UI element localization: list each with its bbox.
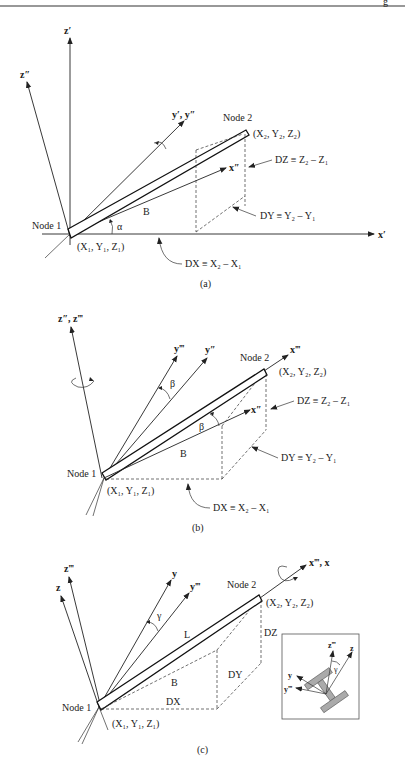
- corner-glyph: g: [383, 0, 388, 7]
- z-label: z: [56, 582, 61, 593]
- x-axis: [260, 565, 306, 598]
- z-tprime-label: z‴: [64, 563, 74, 574]
- dz-label: DZ ≡ Z₂ – Z₁: [275, 154, 328, 165]
- y-dprime-label: y″: [205, 344, 216, 355]
- dz-label: DZ ≡ Z₂ – Z₁: [297, 395, 350, 406]
- x-prime-label: x′: [378, 229, 386, 240]
- dx-label: DX ≡ X₂ – X₁: [185, 258, 242, 269]
- y-tprime-label: y‴: [174, 343, 185, 354]
- node1-label: Node 1: [32, 220, 61, 231]
- dx-label: DX ≡ X₂ – X₁: [213, 502, 270, 513]
- node2-coords: (X₂, Y₂, Z₂): [253, 128, 300, 140]
- z-label: z″, z‴: [58, 313, 83, 324]
- projection-b-label: B: [143, 206, 150, 217]
- projection-b-label: B: [171, 677, 178, 688]
- dz-label: DZ: [264, 627, 277, 638]
- caption-c: (c): [197, 744, 208, 756]
- cross-section-inset: z‴ z y y‴ γ: [282, 634, 359, 719]
- x-dprime-axis: [104, 410, 250, 478]
- x-tprime-label: x‴: [290, 344, 301, 355]
- rotation-arrow-head: [155, 141, 159, 145]
- y-prime-label: y′, y″: [172, 109, 195, 120]
- gamma-label: γ: [156, 610, 162, 621]
- dy-label: DY ≡ Y₂ – Y₁: [281, 452, 336, 463]
- z-prime-label: z′: [64, 25, 71, 36]
- z-dprime-axis: [27, 82, 70, 236]
- x-dprime-label: x″: [229, 162, 240, 173]
- z-tprime-axis: [69, 577, 101, 708]
- node1-coords: (X₁, Y₁, Z₁): [112, 718, 159, 730]
- y-label: y: [172, 568, 177, 579]
- node2-label: Node 2: [223, 112, 252, 123]
- length-l-label: L: [184, 629, 190, 640]
- z-axis: [71, 327, 102, 478]
- figure-a: z′ z″ x′ y′, y″ x″ α B Node 1 Node 2 (X₁…: [20, 25, 386, 290]
- node1-coords: (X₁, Y₁, Z₁): [77, 241, 124, 253]
- node1-label: Node 1: [67, 468, 96, 479]
- x-label: x‴, x: [309, 557, 330, 568]
- y-tprime-axis: [104, 356, 177, 478]
- inset-z-label: z: [350, 644, 354, 653]
- node2-label: Node 2: [227, 579, 256, 590]
- node2-coords: (X₂, Y₂, Z₂): [266, 597, 313, 609]
- figure-c: z‴ z y y‴ γ x‴, x L B DX DY DZ: [56, 557, 359, 756]
- projection-b-label: B: [180, 448, 187, 459]
- member-bar: [97, 595, 262, 710]
- beta-bottom-label: β: [199, 421, 204, 432]
- caption-b: (b): [192, 522, 204, 534]
- figure-b: z″, z‴ y‴ y″ β x‴ x″ β B Nod: [58, 313, 350, 534]
- y-axis-extension: [45, 234, 70, 258]
- node2-label: Node 2: [240, 352, 269, 363]
- inset-gamma-label: γ: [333, 665, 338, 674]
- y-axis: [99, 580, 171, 707]
- z-dprime-label: z″: [20, 69, 30, 80]
- dy-label: DY ≡ Y₂ – Y₁: [260, 210, 315, 221]
- z-axis: [61, 596, 99, 707]
- dx-label: DX: [166, 696, 181, 707]
- member-rotation-diagram: g z′ z″ x′ y′, y″ x″ α B Node 1: [0, 0, 405, 765]
- caption-a: (a): [200, 278, 211, 290]
- alpha-label: α: [117, 221, 123, 232]
- y-tprime-label: y‴: [190, 581, 201, 592]
- inset-z-tprime-label: z‴: [328, 641, 337, 650]
- node1-coords: (X₁, Y₁, Z₁): [107, 485, 154, 497]
- dy-label: DY: [228, 669, 242, 680]
- node1-label: Node 1: [62, 702, 91, 713]
- x-dprime-label: x″: [251, 404, 262, 415]
- inset-y-label: y: [288, 671, 292, 680]
- inset-y-tprime-label: y‴: [284, 685, 293, 694]
- node2-coords: (X₂, Y₂, Z₂): [279, 366, 326, 378]
- member-bar: [102, 369, 267, 480]
- beta-top-label: β: [170, 378, 175, 389]
